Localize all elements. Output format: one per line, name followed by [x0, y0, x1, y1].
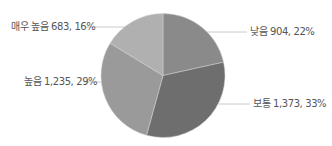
- label-low: 낮음 904, 22%: [250, 26, 314, 38]
- label-very-high: 매우 높음 683, 16%: [11, 21, 95, 33]
- pie-slices: [101, 14, 225, 138]
- label-medium: 보통 1,373, 33%: [253, 98, 326, 110]
- label-high: 높음 1,235, 29%: [24, 76, 97, 88]
